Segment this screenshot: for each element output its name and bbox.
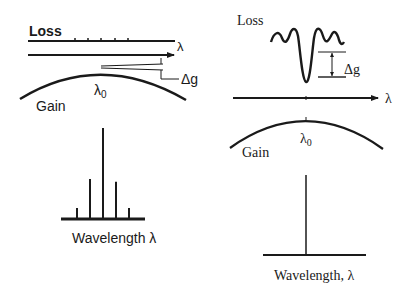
- left-loss-label: Loss: [29, 23, 62, 39]
- left-panel: Loss λ Δg λ0 Gain Wavelength λ: [20, 23, 198, 246]
- left-delta-bottom-line: [101, 68, 163, 70]
- left-spectrum: [61, 128, 145, 219]
- left-delta-top-line: [101, 64, 163, 66]
- left-gain-label: Gain: [36, 98, 66, 114]
- right-gain-label: Gain: [242, 145, 269, 160]
- left-spectrum-xlabel: Wavelength λ: [72, 230, 156, 246]
- left-delta-g-label: Δg: [181, 71, 198, 87]
- right-delta-g-label: Δg: [344, 62, 360, 77]
- right-axis-lambda-label: λ: [385, 91, 392, 106]
- right-loss-label: Loss: [237, 13, 263, 28]
- right-lambda0-label: λ0: [300, 131, 312, 148]
- left-lambda0-label: λ0: [94, 82, 107, 100]
- left-axis-lambda-label: λ: [177, 39, 184, 54]
- right-spectrum-xlabel: Wavelength, λ: [274, 268, 355, 283]
- right-spectrum: [263, 175, 366, 255]
- laser-mode-diagram: Loss λ Δg λ0 Gain Wavelength λ Loss: [0, 0, 413, 295]
- right-panel: Loss Δg λ λ0 Gain Wavelength, λ: [230, 13, 392, 283]
